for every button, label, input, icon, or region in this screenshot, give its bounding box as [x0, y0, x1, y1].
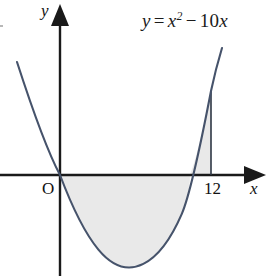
equation-variable: x	[219, 10, 228, 31]
equation-coefficient: 10	[200, 10, 220, 31]
y-axis-arrowhead	[51, 4, 69, 26]
x-tick-label-12: 12	[204, 180, 221, 197]
equation-lhs: y	[142, 10, 151, 31]
equation-exponent: 2	[176, 10, 182, 23]
parabola-figure: y=x2−10x y x O 12	[0, 0, 270, 276]
origin-label: O	[42, 180, 54, 197]
plot-canvas	[0, 0, 270, 276]
equation-minus: −	[183, 10, 200, 31]
shaded-region	[60, 175, 211, 267]
equation-equals: =	[151, 10, 168, 31]
y-axis-label: y	[41, 2, 49, 19]
x-axis-label: x	[250, 180, 258, 197]
equation-label: y=x2−10x	[142, 11, 228, 30]
